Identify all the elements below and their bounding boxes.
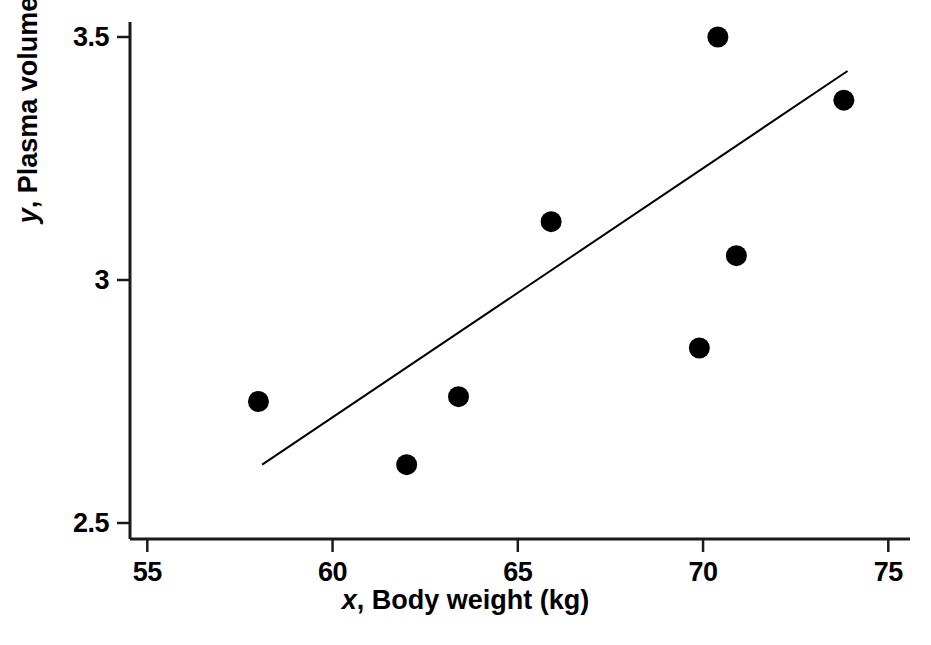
data-point bbox=[726, 245, 747, 266]
x-tick-label: 70 bbox=[689, 557, 718, 588]
y-axis-title-container: y, Plasma volume (litres) bbox=[0, 37, 293, 93]
data-point bbox=[448, 386, 469, 407]
data-point bbox=[689, 338, 710, 359]
data-point bbox=[396, 454, 417, 475]
data-point bbox=[541, 211, 562, 232]
axis-title-text: , Body weight (kg) bbox=[357, 585, 590, 615]
axis-variable-symbol: y bbox=[13, 208, 43, 223]
data-point bbox=[833, 90, 854, 111]
x-tick-label: 75 bbox=[874, 557, 903, 588]
regression-line bbox=[262, 71, 847, 465]
x-tick-label: 65 bbox=[503, 557, 532, 588]
x-tick-label: 55 bbox=[133, 557, 162, 588]
data-point bbox=[248, 391, 269, 412]
y-tick-label: 3 bbox=[94, 265, 109, 296]
y-axis-title: y, Plasma volume (litres) bbox=[13, 0, 44, 223]
scatter-plot-figure: 55606570752.533.5 x, Body weight (kg) y,… bbox=[0, 0, 931, 645]
axis-title-text: , Plasma volume (litres) bbox=[13, 0, 43, 208]
axis-variable-symbol: x bbox=[342, 585, 357, 615]
x-tick-label: 60 bbox=[318, 557, 347, 588]
y-tick-label: 2.5 bbox=[73, 508, 109, 539]
x-axis-title: x, Body weight (kg) bbox=[0, 585, 931, 616]
data-point bbox=[707, 27, 728, 48]
plot-canvas bbox=[0, 0, 931, 645]
